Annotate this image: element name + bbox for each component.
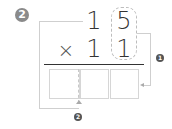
answer-box-ones[interactable] bbox=[110, 69, 139, 99]
tens-shift-guide bbox=[78, 69, 79, 103]
multiplier-tens-digit: 1 bbox=[85, 37, 103, 61]
multiply-operator: × bbox=[57, 38, 75, 62]
connector-right-line bbox=[150, 33, 151, 85]
connector-top-line bbox=[137, 33, 151, 34]
connector-bottom-line bbox=[143, 85, 151, 86]
multiplicand-tens-digit: 1 bbox=[85, 9, 103, 33]
callout-badge-2: 2 bbox=[74, 113, 82, 121]
multiplier-ones-digit: 1 bbox=[115, 37, 133, 61]
callout-badge-1: 1 bbox=[156, 54, 164, 62]
arrow-left-icon bbox=[140, 83, 144, 87]
bracket-bottom-line bbox=[39, 108, 79, 109]
bracket-left-line bbox=[39, 21, 40, 109]
arrow-up-icon bbox=[76, 100, 82, 104]
bracket-top-line bbox=[39, 21, 83, 22]
answer-box-hundreds[interactable] bbox=[49, 69, 80, 99]
result-rule bbox=[44, 64, 144, 65]
step-badge: 2 bbox=[15, 8, 29, 22]
answer-box-tens[interactable] bbox=[80, 69, 109, 99]
multiplicand-ones-digit: 5 bbox=[115, 9, 133, 33]
